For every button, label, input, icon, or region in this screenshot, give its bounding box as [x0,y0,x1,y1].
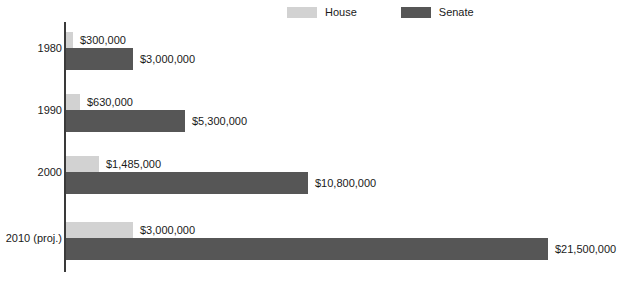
bar-row: $21,500,000 [66,238,616,260]
category-label: 2010 (proj.) [6,232,62,244]
bar-senate [66,48,133,70]
bar-value-label: $5,300,000 [192,116,247,127]
bar-row: $3,000,000 [66,222,195,238]
bar-row: $10,800,000 [66,172,376,194]
bar-value-label: $3,000,000 [140,54,195,65]
bar-row: $630,000 [66,94,133,110]
bar-value-label: $300,000 [80,35,126,46]
bar-value-label: $3,000,000 [140,225,195,236]
bar-house [66,222,133,238]
bar-row: $3,000,000 [66,48,195,70]
bar-senate [66,110,185,132]
bar-row: $300,000 [66,32,126,48]
category-label: 1990 [38,104,62,116]
bar-value-label: $10,800,000 [315,178,376,189]
bar-value-label: $21,500,000 [555,244,616,255]
category-label: 2000 [38,166,62,178]
bar-row: $5,300,000 [66,110,247,132]
bar-chart: House Senate 1980$300,000$3,000,0001990$… [0,0,621,283]
category-label: 1980 [38,42,62,54]
bar-house [66,94,80,110]
bar-house [66,156,99,172]
bar-senate [66,238,548,260]
bar-house [66,32,73,48]
bar-row: $1,485,000 [66,156,161,172]
plot-area: 1980$300,000$3,000,0001990$630,000$5,300… [0,0,621,283]
bar-value-label: $630,000 [87,97,133,108]
bar-value-label: $1,485,000 [106,159,161,170]
bar-senate [66,172,308,194]
